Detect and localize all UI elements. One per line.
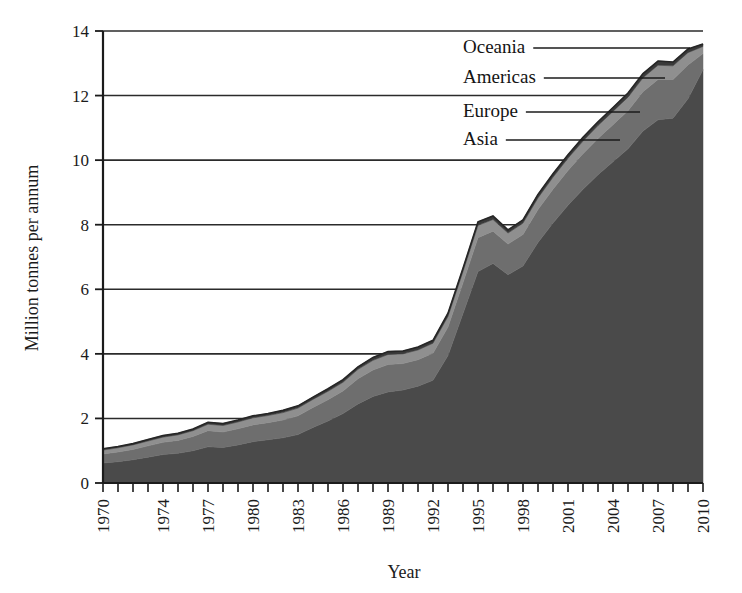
- chart-figure: Million tonnes per annum Year 0246810121…: [0, 0, 742, 593]
- x-tick-label: 2010: [694, 499, 713, 533]
- y-tick-label: 12: [72, 87, 89, 106]
- legend-label-europe: Europe: [463, 100, 518, 121]
- y-tick-label: 2: [81, 409, 90, 428]
- x-tick-label: 1998: [514, 499, 533, 533]
- x-axis-title: Year: [387, 562, 420, 582]
- y-tick-label: 14: [72, 22, 90, 41]
- y-axis-title: Million tonnes per annum: [22, 165, 42, 351]
- legend-label-americas: Americas: [463, 66, 536, 87]
- x-tick-label: 1980: [244, 499, 263, 533]
- x-tick-label: 1986: [334, 499, 353, 533]
- legend-label-asia: Asia: [463, 128, 498, 149]
- x-tick-label: 2001: [559, 499, 578, 533]
- x-tick-label: 1970: [94, 499, 113, 533]
- y-tick-label: 4: [81, 345, 90, 364]
- x-tick-label: 2004: [604, 499, 623, 534]
- y-tick-label: 0: [81, 474, 90, 493]
- x-tick-label: 1989: [379, 499, 398, 533]
- x-axis-ticks: [103, 483, 703, 492]
- legend-label-oceania: Oceania: [463, 36, 526, 57]
- y-tick-label: 8: [81, 216, 90, 235]
- x-tick-label: 1974: [154, 499, 173, 534]
- stacked-area-chart: Million tonnes per annum Year 0246810121…: [0, 0, 742, 593]
- x-tick-label: 1977: [199, 499, 218, 534]
- x-tick-label: 1995: [469, 499, 488, 533]
- y-tick-label: 10: [72, 151, 89, 170]
- x-tick-label: 2007: [649, 499, 668, 534]
- x-tick-label: 1983: [289, 499, 308, 533]
- y-tick-label: 6: [81, 280, 90, 299]
- x-tick-label: 1992: [424, 499, 443, 533]
